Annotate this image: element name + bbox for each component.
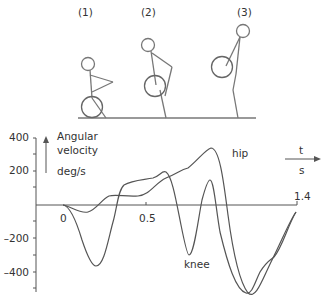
angular-velocity-chart	[0, 0, 327, 307]
y-tick-neg200: –200	[0, 232, 29, 244]
series-label-knee: knee	[184, 258, 210, 270]
y-axis-label-line2: velocity	[57, 144, 98, 156]
y-tick-neg400: –400	[0, 266, 29, 278]
x-axis-label-s: s	[299, 164, 304, 176]
y-axis-label-line3: deg/s	[57, 165, 86, 177]
x-axis-label-t: t	[299, 144, 303, 156]
y-tick-400: 400	[0, 131, 29, 143]
series-knee-line	[63, 172, 296, 294]
x-tick-0: 0	[60, 212, 67, 224]
series-label-hip: hip	[232, 147, 248, 159]
x-tick-1.4: 1.4	[294, 190, 311, 202]
x-tick-0.5: 0.5	[139, 212, 156, 224]
y-tick-200: 200	[0, 164, 29, 176]
series-hip-line	[63, 148, 296, 294]
y-axis-label-line1: Angular	[57, 130, 98, 142]
